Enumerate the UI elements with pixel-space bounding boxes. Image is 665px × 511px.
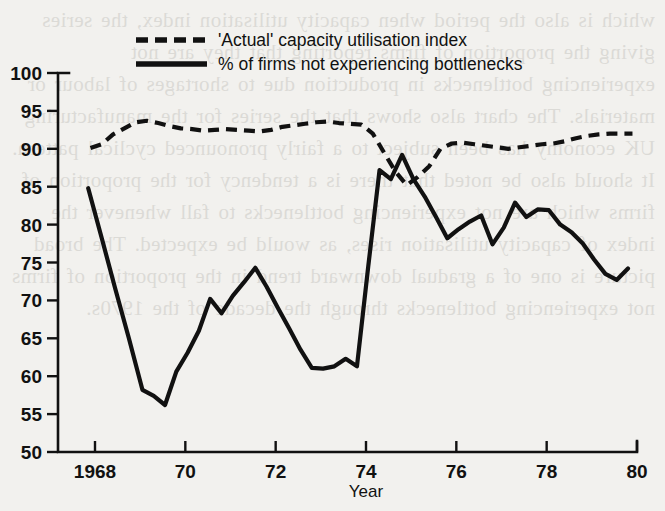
x-tick-label: 80 xyxy=(626,461,647,482)
legend-label-actual-capacity-utilisation-index: 'Actual' capacity utilisation index xyxy=(218,30,467,50)
x-tick-label: 76 xyxy=(446,461,467,482)
x-axis-title: Year xyxy=(349,482,384,501)
x-tick-label: 74 xyxy=(355,461,377,482)
y-tick-label: 95 xyxy=(21,101,43,122)
y-axis-ticks: 50556065707580859095100 xyxy=(10,63,58,463)
x-tick-label: 78 xyxy=(536,461,557,482)
y-tick-label: 60 xyxy=(21,366,42,387)
x-tick-label: 72 xyxy=(265,461,286,482)
chart-axes xyxy=(58,73,637,452)
y-tick-label: 85 xyxy=(21,177,43,198)
y-tick-label: 90 xyxy=(21,139,42,160)
legend-label-percent-firms-not-experiencing-bottlenecks: % of firms not experiencing bottlenecks xyxy=(218,54,523,74)
series-line-actual-capacity-utilisation-index xyxy=(90,121,632,185)
series-line-percent-firms-not-experiencing-bottlenecks xyxy=(88,155,628,405)
x-tick-label: 70 xyxy=(175,461,196,482)
y-tick-label: 100 xyxy=(10,63,42,84)
capacity-utilisation-line-chart: 'Actual' capacity utilisation index % of… xyxy=(0,0,665,511)
y-tick-label: 50 xyxy=(21,442,42,463)
y-tick-label: 65 xyxy=(21,328,43,349)
x-axis-ticks: 1968707274767880 xyxy=(74,441,648,482)
chart-figure: 'Actual' capacity utilisation index % of… xyxy=(0,0,665,511)
chart-legend: 'Actual' capacity utilisation index % of… xyxy=(136,30,523,74)
x-tick-label: 1968 xyxy=(74,461,116,482)
y-tick-label: 55 xyxy=(21,404,43,425)
y-tick-label: 70 xyxy=(21,290,42,311)
y-tick-label: 80 xyxy=(21,215,42,236)
y-tick-label: 75 xyxy=(21,253,43,274)
